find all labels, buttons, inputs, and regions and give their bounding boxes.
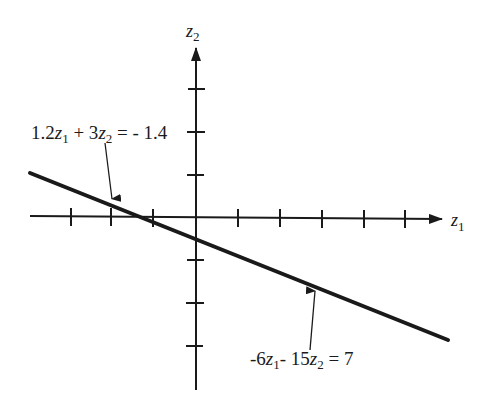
upper-annotation-pointer: [105, 143, 112, 199]
equation-label-lower: -6z1- 15z2 = 7: [250, 348, 353, 372]
lower-annotation-pointer: [310, 291, 315, 350]
figure-canvas: z2 z1 1.2z1 + 3z2 = - 1.4 -6z1- 15z2 = 7: [0, 0, 490, 415]
z2-axis-label: z2: [185, 21, 200, 44]
z1-axis-label: z1: [450, 210, 465, 234]
equation-label-upper: 1.2z1 + 3z2 = - 1.4: [31, 122, 168, 146]
equation-line: [30, 173, 448, 340]
z1-axis: [30, 216, 442, 219]
